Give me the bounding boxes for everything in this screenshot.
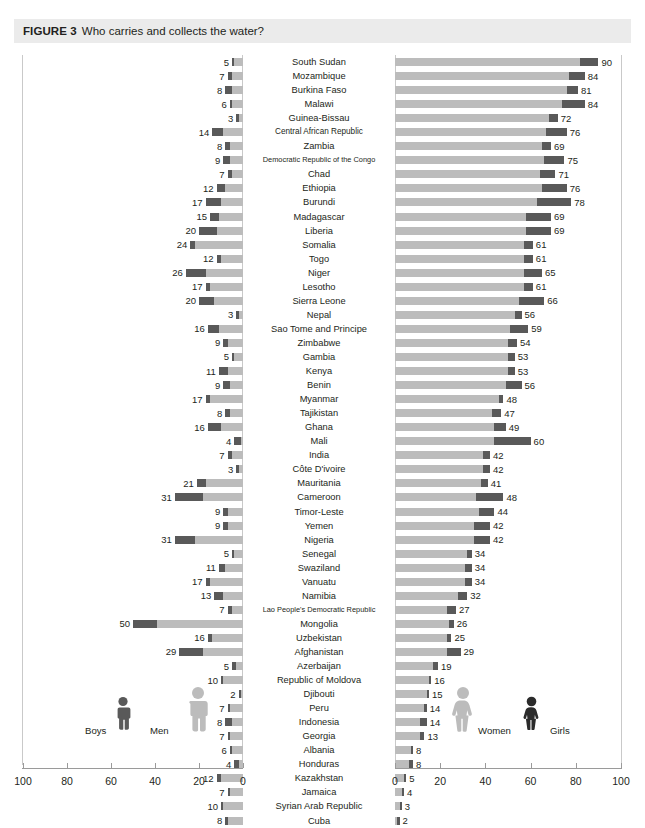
axis-tick [621,763,622,768]
left-bar-row: 6 [22,97,243,111]
bar-segment-women [395,353,508,361]
right-bar-row: 25 [395,631,622,645]
bar-segment-women [395,170,540,178]
left-bar-row: 16 [22,322,243,336]
left-value-label: 26 [172,266,183,279]
right-stacked-bar [395,311,522,319]
right-stacked-bar [395,255,533,263]
country-label: Sierra Leone [243,294,395,308]
country-label: Gambia [243,350,395,364]
left-bar-row: 8 [22,814,243,828]
bar-segment-boys [208,325,219,333]
axis-tick-label: 60 [91,775,131,787]
left-bar-row: 5 [22,55,243,69]
left-value-label: 4 [226,435,231,448]
country-label: Cuba [243,814,395,828]
left-stacked-bar [175,493,243,501]
bar-segment-men [223,592,243,600]
bar-segment-women [395,156,544,164]
bar-segment-boys [219,564,226,572]
bar-segment-girls [494,423,505,431]
left-stacked-bar [223,508,243,516]
bar-segment-men [206,479,243,487]
right-bar-row: 54 [395,336,622,350]
left-value-label: 16 [194,322,205,335]
left-value-label: 3 [228,308,233,321]
axis-tick [440,763,441,768]
bar-segment-girls [492,409,501,417]
left-stacked-bar [228,732,243,740]
right-value-label: 75 [568,154,579,167]
left-stacked-bar [223,522,243,530]
left-value-label: 7 [219,702,224,715]
bar-segment-girls [411,746,413,754]
bar-segment-girls [499,395,504,403]
bar-segment-men [228,817,243,825]
bar-segment-men [195,536,243,544]
left-value-label: 7 [219,603,224,616]
bar-segment-women [395,114,549,122]
right-stacked-bar [395,732,424,740]
left-bar-row: 17 [22,575,243,589]
right-value-label: 84 [588,98,599,111]
bar-segment-girls [567,86,578,94]
left-value-label: 11 [206,365,216,378]
bar-segment-girls [447,648,461,656]
right-bar-row: 14 [395,701,622,715]
country-label: Djibouti [243,687,395,701]
bar-segment-women [395,564,465,572]
right-value-label: 78 [574,196,585,209]
left-bar-row: 17 [22,280,243,294]
right-value-label: 61 [536,238,547,251]
country-label: Nigeria [243,533,395,547]
bar-segment-men [236,662,243,670]
bar-segment-girls [481,479,488,487]
right-stacked-bar [395,802,402,810]
right-value-label: 49 [509,421,520,434]
country-label: Namibia [243,589,395,603]
bar-segment-boys [206,198,221,206]
right-value-label: 54 [520,336,531,349]
bar-segment-men [210,283,243,291]
country-label: Vanuatu [243,575,395,589]
left-stacked-bar [232,58,243,66]
right-stacked-bar [395,746,413,754]
right-bar-row: 8 [395,757,622,771]
right-bar-row: 72 [395,111,622,125]
right-value-label: 69 [554,210,565,223]
left-stacked-bar [223,156,243,164]
country-label: Swaziland [243,561,395,575]
right-value-label: 59 [531,322,542,335]
bar-segment-girls [420,718,427,726]
left-value-label: 9 [215,154,220,167]
bar-segment-women [395,592,458,600]
bar-segment-girls [526,213,551,221]
right-bar-row: 8 [395,743,622,757]
left-value-label: 3 [228,112,233,125]
axis-tick [23,763,24,768]
bar-segment-men [230,732,243,740]
bar-segment-girls [397,817,399,825]
bar-segment-men [234,353,243,361]
right-value-label: 69 [554,224,565,237]
right-value-label: 48 [506,491,517,504]
right-axis-line [395,768,622,769]
bar-segment-girls [420,732,425,740]
right-stacked-bar [395,479,488,487]
left-value-label: 8 [217,407,222,420]
right-bar-row: 66 [395,294,622,308]
right-value-label: 3 [405,800,410,813]
axis-tick [576,763,577,768]
right-bar-row: 19 [395,659,622,673]
left-stacked-bar [230,746,243,754]
left-stacked-bar [208,423,243,431]
bar-segment-girls [400,802,402,810]
left-value-label: 10 [207,800,218,813]
bar-segment-men [195,241,243,249]
right-stacked-bar [395,817,400,825]
axis-tick [155,763,156,768]
bar-segment-men [230,704,243,712]
right-stacked-bar [395,606,456,614]
bar-segment-men [221,198,243,206]
bar-segment-boys [225,86,232,94]
